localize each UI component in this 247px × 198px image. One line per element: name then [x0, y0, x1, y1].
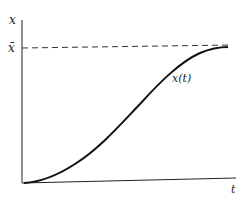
logistic-growth-diagram: x x̄ x(t) t — [0, 0, 247, 198]
x-axis — [22, 178, 236, 183]
curve-label: x(t) — [172, 72, 191, 85]
curve-x-of-t — [24, 47, 228, 183]
x-axis-label: t — [231, 183, 236, 196]
y-axis-label: x — [9, 13, 16, 27]
asymptote-dashed-line — [22, 45, 232, 48]
asymptote-label: x̄ — [8, 41, 15, 55]
